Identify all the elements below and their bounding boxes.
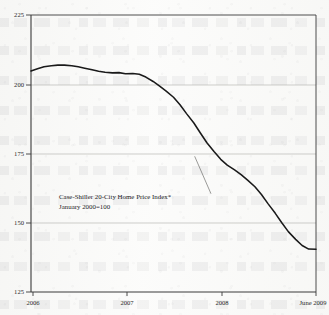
series-callout: Case-Shiller 20-City Home Price Index* J… bbox=[59, 193, 172, 210]
y-tick-label: 200 bbox=[14, 81, 25, 88]
x-tick-label: June 2009 bbox=[300, 299, 328, 306]
x-tick-label: 2007 bbox=[120, 299, 134, 306]
x-axis-ticks bbox=[33, 292, 316, 296]
x-axis-labels: 2006 2007 2008 June 2009 bbox=[26, 299, 327, 306]
callout-line-2: January 2000=100 bbox=[59, 203, 111, 210]
data-series-line bbox=[31, 65, 316, 249]
callout-line-1: Case-Shiller 20-City Home Price Index* bbox=[59, 193, 172, 200]
y-tick-label: 225 bbox=[14, 11, 25, 18]
y-axis-ticks bbox=[26, 15, 31, 292]
y-tick-label: 125 bbox=[14, 288, 25, 295]
y-tick-label: 150 bbox=[14, 219, 25, 226]
line-chart: 225 200 175 150 125 2006 2007 2008 June … bbox=[0, 0, 329, 315]
y-axis-labels: 225 200 175 150 125 bbox=[14, 11, 25, 295]
x-tick-label: 2008 bbox=[215, 299, 229, 306]
chart-figure: 225 200 175 150 125 2006 2007 2008 June … bbox=[0, 0, 329, 315]
callout-leader-line bbox=[195, 156, 211, 193]
axis-lines bbox=[31, 15, 316, 292]
x-tick-label: 2006 bbox=[26, 299, 40, 306]
y-tick-label: 175 bbox=[14, 150, 25, 157]
